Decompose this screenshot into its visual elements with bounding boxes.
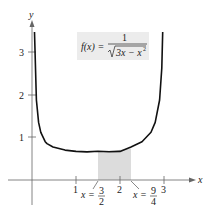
- x-axis-label: x: [197, 174, 203, 185]
- annotation-2-label: x =: [132, 189, 147, 200]
- formula-exponent: 2: [143, 46, 146, 52]
- annotation-2-num: 9: [151, 185, 156, 196]
- annotation-1-label: x =: [80, 189, 95, 200]
- x-tick-label-3: 3: [161, 184, 166, 195]
- formula-denominator: 3x − x: [115, 47, 142, 58]
- annotation-pointer-2: [131, 181, 139, 189]
- x-tick-label-2: 2: [117, 184, 122, 195]
- y-axis-arrow-icon: [30, 20, 35, 27]
- x-tick-label-1: 1: [73, 184, 78, 195]
- annotation-pointer-1: [93, 181, 98, 189]
- formula-numerator: 1: [122, 32, 127, 43]
- x-axis-arrow-icon: [189, 178, 196, 183]
- y-tick-label-3: 3: [19, 47, 24, 58]
- formula-lhs: f(x) =: [81, 41, 104, 53]
- annotation-2-den: 4: [151, 196, 156, 207]
- annotation-1-den: 2: [99, 196, 104, 207]
- y-axis-label: y: [28, 9, 34, 20]
- y-tick-label-2: 2: [19, 90, 24, 101]
- shaded-region: [98, 149, 131, 181]
- annotation-1-num: 3: [99, 185, 104, 196]
- function-graph: 1 2 3 1 2 3 x y f(x) = 1 3x − x 2 x = 3 …: [0, 0, 210, 214]
- y-tick-label-1: 1: [19, 132, 24, 143]
